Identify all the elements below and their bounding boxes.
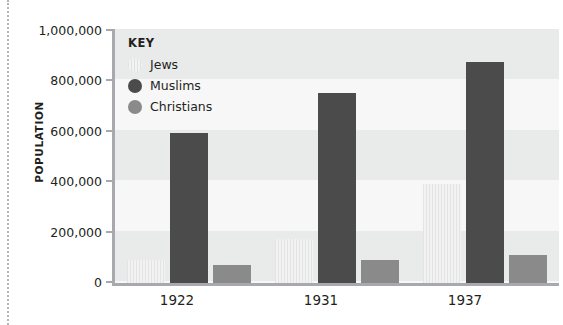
chart-figure: POPULATION 1,000,000 800,000 600,000 400…: [0, 0, 563, 325]
legend-item-christians: Christians: [128, 96, 248, 117]
bar-christians-1931: [361, 260, 399, 283]
legend-label: Christians: [150, 99, 212, 114]
legend-item-muslims: Muslims: [128, 75, 248, 96]
y-tick-label: 1,000,000: [10, 23, 102, 38]
bar-jews-1922: [127, 260, 165, 283]
x-tick-label: 1937: [405, 292, 525, 308]
y-tick-label: 200,000: [10, 224, 102, 239]
legend-title: KEY: [128, 36, 248, 50]
bar-jews-1931: [275, 239, 313, 283]
y-tick-label: 600,000: [10, 123, 102, 138]
legend: KEY Jews Muslims Christians: [128, 36, 248, 117]
legend-item-jews: Jews: [128, 54, 248, 75]
x-axis-line: [112, 283, 559, 286]
y-tick-label: 400,000: [10, 174, 102, 189]
bar-muslims-1937: [466, 62, 504, 283]
legend-swatch-icon-jews: [128, 58, 142, 72]
bar-christians-1937: [509, 255, 547, 283]
legend-swatch-icon-muslims: [128, 79, 142, 93]
x-tick-label: 1922: [117, 292, 237, 308]
y-axis-tick-labels: 1,000,000 800,000 600,000 400,000 200,00…: [10, 0, 102, 325]
y-tick-label: 0: [10, 275, 102, 290]
bar-muslims-1922: [170, 133, 208, 283]
legend-label: Muslims: [150, 78, 201, 93]
legend-swatch-icon-christians: [128, 100, 142, 114]
bar-muslims-1931: [318, 93, 356, 284]
y-tick-label: 800,000: [10, 73, 102, 88]
page-left-dotted-rule: [7, 0, 9, 325]
x-tick-label: 1931: [261, 292, 381, 308]
legend-label: Jews: [150, 57, 178, 72]
bar-christians-1922: [213, 265, 251, 283]
bar-jews-1937: [423, 184, 461, 283]
